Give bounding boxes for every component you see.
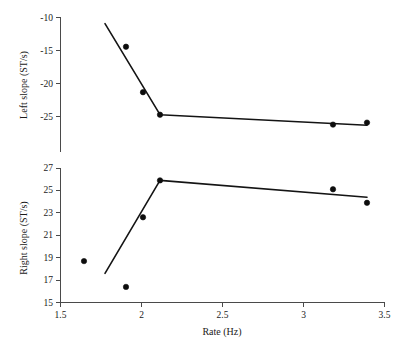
x-ticks bbox=[61, 303, 385, 308]
data-point bbox=[123, 44, 128, 49]
x-tick-label: 1.5 bbox=[55, 310, 67, 320]
top-y-tick-label: -10 bbox=[40, 13, 53, 23]
bottom-y-axis-title: Right slope (ST/s) bbox=[18, 201, 30, 274]
figure-container: -10 -15 -20 -25 Left slope (ST/s) bbox=[0, 0, 408, 351]
top-y-tick-label: -15 bbox=[40, 46, 53, 56]
bottom-y-ticks bbox=[56, 168, 61, 303]
data-point bbox=[157, 112, 162, 117]
bottom-y-tick-label: 17 bbox=[44, 275, 54, 285]
data-point bbox=[157, 178, 162, 183]
top-fit-line bbox=[105, 24, 367, 126]
top-data-markers bbox=[123, 44, 369, 127]
x-tick-label: 3 bbox=[301, 310, 306, 320]
bottom-y-tick-label: 19 bbox=[44, 253, 54, 263]
data-point bbox=[140, 215, 145, 220]
bottom-panel: 15 17 19 21 23 25 27 Right slope (ST/s) … bbox=[18, 163, 391, 338]
x-tick-label: 2 bbox=[139, 310, 144, 320]
bottom-y-tick-label: 25 bbox=[44, 185, 54, 195]
x-axis-title: Rate (Hz) bbox=[202, 326, 241, 338]
top-y-tick-label: -20 bbox=[40, 79, 53, 89]
bottom-y-tick-label: 15 bbox=[44, 298, 54, 308]
data-point bbox=[364, 200, 369, 205]
bottom-y-tick-label: 23 bbox=[44, 208, 54, 218]
x-tick-label: 3.5 bbox=[379, 310, 391, 320]
data-point bbox=[364, 120, 369, 125]
data-point bbox=[81, 258, 86, 263]
chart-svg: -10 -15 -20 -25 Left slope (ST/s) bbox=[0, 0, 408, 351]
data-point bbox=[330, 122, 335, 127]
data-point bbox=[123, 284, 128, 289]
bottom-y-tick-label: 21 bbox=[44, 230, 54, 240]
data-point bbox=[330, 187, 335, 192]
data-point bbox=[140, 90, 145, 95]
bottom-fit-line bbox=[105, 180, 367, 273]
top-y-ticks bbox=[56, 18, 61, 117]
bottom-y-tick-label: 27 bbox=[44, 163, 54, 173]
top-y-tick-label: -25 bbox=[40, 112, 53, 122]
x-tick-label: 2.5 bbox=[217, 310, 229, 320]
top-panel: -10 -15 -20 -25 Left slope (ST/s) bbox=[18, 13, 370, 153]
top-y-axis-title: Left slope (ST/s) bbox=[18, 51, 30, 119]
